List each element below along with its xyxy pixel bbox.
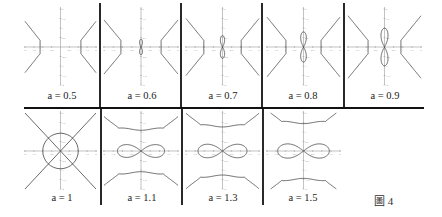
y-tick-label: -0.5: [62, 56, 67, 59]
x-tick-label: 1: [159, 153, 161, 156]
y-tick-label: -1: [143, 65, 146, 68]
y-tick-label: 1: [224, 131, 226, 134]
x-tick-label: 1.5: [329, 49, 333, 52]
panel-label-a-0-7: a = 0.7: [183, 90, 263, 101]
x-tick-label: 2: [177, 49, 179, 52]
x-tick-label: -1.5: [32, 153, 37, 156]
x-tick-label: -2: [24, 153, 27, 156]
y-tick-label: 2: [62, 8, 64, 11]
panel-label-a-1-3: a = 1.3: [183, 192, 263, 203]
y-tick-label: -0.5: [224, 160, 229, 163]
y-tick-label: 1.5: [305, 18, 309, 21]
y-tick-label: -1.5: [143, 179, 148, 182]
y-tick-label: 1: [143, 131, 145, 134]
y-tick-label: 1: [224, 27, 226, 30]
x-tick-label: -0.5: [211, 49, 216, 52]
x-tick-label: 0.5: [149, 49, 153, 52]
x-tick-label: -2: [266, 49, 269, 52]
y-tick-label: 0.5: [305, 37, 309, 40]
x-tick-label: 0.5: [68, 153, 72, 156]
x-tick-label: 1.5: [329, 153, 333, 156]
x-tick-label: 1.5: [248, 153, 252, 156]
x-tick-label: 0.5: [230, 153, 234, 156]
y-tick-label: 2: [305, 112, 307, 115]
x-tick-label: 1: [321, 153, 323, 156]
x-tick-label: 0.5: [311, 49, 315, 52]
y-tick-label: -1: [305, 65, 308, 68]
y-tick-label: -2: [143, 84, 146, 87]
x-tick-label: -0.5: [292, 49, 297, 52]
y-tick-label: 2: [224, 8, 226, 11]
panel-label-a-0-6: a = 0.6: [102, 90, 182, 101]
y-tick-label: -1.5: [224, 179, 229, 182]
x-tick-label: -1: [42, 49, 45, 52]
y-tick-label: 0.5: [62, 141, 66, 144]
x-tick-label: -0.5: [130, 49, 135, 52]
x-tick-label: 1.5: [86, 153, 90, 156]
y-tick-label: 1: [305, 131, 307, 134]
x-tick-label: -0.5: [292, 153, 297, 156]
x-tick-label: -1.5: [193, 153, 198, 156]
x-tick-label: 0.5: [311, 153, 315, 156]
panel-label-a-1: a = 1: [22, 192, 102, 203]
x-tick-label: 0.5: [149, 153, 153, 156]
y-tick-label: -1: [224, 169, 227, 172]
y-tick-label: -0.5: [305, 56, 310, 59]
y-tick-label: 2: [305, 8, 307, 11]
y-tick-label: 2: [143, 112, 145, 115]
x-tick-label: -2: [347, 49, 350, 52]
x-tick-label: 2: [339, 153, 341, 156]
x-tick-label: 1.5: [86, 49, 90, 52]
y-tick-label: -0.5: [143, 56, 148, 59]
plot-grid: -2-1.5-1-0.50.511.5221.510.5-0.5-1-1.5-2…: [0, 0, 442, 217]
x-tick-label: 0.5: [68, 49, 72, 52]
plot-panel: -2-1.5-1-0.50.511.5221.510.5-0.5-1-1.5-2: [24, 7, 97, 87]
x-tick-label: -2: [266, 153, 269, 156]
y-tick-label: 1.5: [62, 18, 66, 21]
panel-label-a-1-5: a = 1.5: [263, 192, 343, 203]
plot-panel: -2-1.5-1-0.50.511.5221.510.5-0.5-1-1.5-2: [185, 7, 260, 87]
plot-panel: -2-1.5-1-0.50.511.5221.510.5-0.5-1-1.5-2: [103, 7, 179, 87]
plot-panel: -2-1.5-1-0.50.511.5221.510.5-0.5-1-1.5-2: [266, 111, 341, 191]
y-tick-label: -2: [305, 84, 308, 87]
x-tick-label: -1.5: [111, 153, 116, 156]
y-tick-label: -2: [224, 188, 227, 191]
plot-panel: -2-1.5-1-0.50.511.5221.510.5-0.5-1-1.5-2: [103, 111, 179, 191]
x-tick-label: -1: [365, 49, 368, 52]
y-tick-label: 1: [62, 27, 64, 30]
y-tick-label: -2: [386, 84, 389, 87]
x-tick-label: -1: [203, 153, 206, 156]
y-tick-label: 1: [305, 27, 307, 30]
x-tick-label: -0.5: [211, 153, 216, 156]
x-tick-label: -0.5: [50, 153, 55, 156]
y-tick-label: 0.5: [143, 37, 147, 40]
y-tick-label: 1.5: [224, 122, 228, 125]
y-tick-label: -0.5: [62, 160, 67, 163]
x-tick-label: 1: [240, 153, 242, 156]
y-tick-label: -1.5: [386, 75, 391, 78]
y-tick-label: -2: [62, 84, 65, 87]
x-tick-label: -2: [185, 49, 188, 52]
y-tick-label: 1.5: [143, 122, 147, 125]
figure-caption: 圖 4: [374, 192, 393, 208]
x-tick-label: 2: [339, 49, 341, 52]
x-tick-label: -2: [103, 49, 106, 52]
x-tick-label: -2: [185, 153, 188, 156]
x-tick-label: 1.5: [248, 49, 252, 52]
plot-panel: -2-1.5-1-0.50.511.5221.510.5-0.5-1-1.5-2: [266, 7, 341, 87]
x-tick-label: 1.5: [167, 49, 171, 52]
y-tick-label: -2: [224, 84, 227, 87]
y-tick-label: 1.5: [386, 18, 390, 21]
y-tick-label: 0.5: [62, 37, 66, 40]
x-tick-label: 2: [95, 153, 97, 156]
x-tick-label: -1.5: [274, 49, 279, 52]
y-tick-label: -2: [305, 188, 308, 191]
y-tick-label: -1: [62, 65, 65, 68]
panel-label-a-0-8: a = 0.8: [263, 90, 343, 101]
x-tick-label: 0.5: [230, 49, 234, 52]
y-tick-label: -1.5: [305, 75, 310, 78]
panel-label-a-0-9: a = 0.9: [345, 90, 425, 101]
x-tick-label: -1.5: [32, 49, 37, 52]
y-tick-label: 0.5: [143, 141, 147, 144]
x-tick-label: 1: [159, 49, 161, 52]
